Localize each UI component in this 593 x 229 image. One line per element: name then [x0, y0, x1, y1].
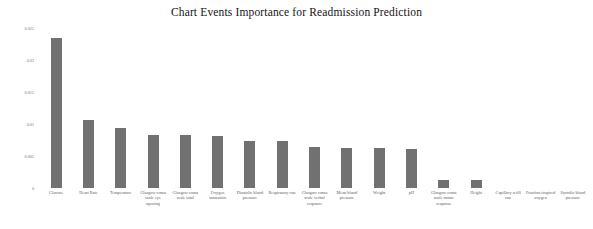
- bar[interactable]: [115, 128, 126, 188]
- bar[interactable]: [438, 180, 449, 188]
- bar-slot: [557, 28, 589, 188]
- bar-slot: [40, 28, 72, 188]
- x-axis-tick: Glucose: [40, 190, 72, 195]
- x-axis-tick: Systolic blood pressure: [557, 190, 589, 201]
- x-axis-tick: pH: [395, 190, 427, 195]
- bar[interactable]: [244, 141, 255, 188]
- x-axis-tick-labels: GlucoseHeart RateTemperatureGlasgow coma…: [40, 190, 589, 229]
- x-axis-tick: Glasgow coma scale total: [169, 190, 201, 201]
- bar[interactable]: [180, 135, 191, 188]
- x-axis-tick: Heart Rate: [72, 190, 104, 195]
- x-axis-tick: Mean blood pressure: [331, 190, 363, 201]
- bar-slot: [428, 28, 460, 188]
- y-axis-tick: 0.005: [25, 154, 34, 159]
- y-axis-tick: 0.01: [27, 122, 34, 127]
- bar-slot: [331, 28, 363, 188]
- x-axis-tick: Fraction inspired oxygen: [524, 190, 556, 201]
- bar-slot: [234, 28, 266, 188]
- bar[interactable]: [83, 120, 94, 188]
- chart-figure: Chart Events Importance for Readmission …: [0, 0, 593, 229]
- x-axis-tick: Glasgow coma scale motor response: [428, 190, 460, 206]
- x-axis-tick: Respiratory rate: [266, 190, 298, 195]
- y-axis-tick-labels: 0.0250.020.0150.010.0050: [0, 28, 38, 188]
- x-axis-tick: Glasgow coma scale eye opening: [137, 190, 169, 206]
- chart-title: Chart Events Importance for Readmission …: [0, 6, 593, 18]
- x-axis-tick: Temperature: [105, 190, 137, 195]
- bar-slot: [363, 28, 395, 188]
- bar[interactable]: [148, 135, 159, 188]
- bar[interactable]: [277, 141, 288, 188]
- bar[interactable]: [471, 180, 482, 188]
- bar-slot: [524, 28, 556, 188]
- bar[interactable]: [341, 148, 352, 188]
- bar-slot: [298, 28, 330, 188]
- x-axis-tick: Capillary refill rate: [492, 190, 524, 201]
- bar-series: [40, 28, 589, 188]
- bar-slot: [72, 28, 104, 188]
- y-axis-tick: 0.025: [25, 26, 34, 31]
- y-axis-tick: 0.015: [25, 90, 34, 95]
- bar-slot: [492, 28, 524, 188]
- x-axis-tick: Weight: [363, 190, 395, 195]
- x-axis-tick: Height: [460, 190, 492, 195]
- bar-slot: [105, 28, 137, 188]
- bar-slot: [137, 28, 169, 188]
- bar-slot: [460, 28, 492, 188]
- bar[interactable]: [309, 147, 320, 188]
- x-axis-tick: Oxygen saturation: [201, 190, 233, 201]
- x-axis-tick: Glasgow coma scale verbal response: [298, 190, 330, 206]
- x-axis-tick: Diastolic blood pressure: [234, 190, 266, 201]
- y-axis-tick: 0.02: [27, 58, 34, 63]
- y-axis-tick: 0: [32, 186, 34, 191]
- bar-slot: [201, 28, 233, 188]
- bar-slot: [395, 28, 427, 188]
- bar-slot: [266, 28, 298, 188]
- bar[interactable]: [406, 149, 417, 188]
- bar[interactable]: [51, 38, 62, 188]
- bar[interactable]: [374, 148, 385, 188]
- bar[interactable]: [212, 136, 223, 188]
- bar-slot: [169, 28, 201, 188]
